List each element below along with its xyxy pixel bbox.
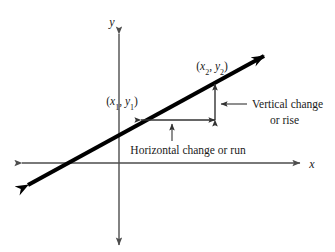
point-1-label: (x1, y1): [106, 95, 138, 112]
point-2-close-paren: ): [224, 60, 228, 73]
slope-diagram: y x (x1, y1) (x2, y2) Vertical change or…: [0, 0, 335, 252]
x-axis-label: x: [308, 157, 315, 171]
point-1-close-paren: ): [134, 95, 138, 108]
vertical-change-label-line1: Vertical change: [252, 98, 323, 111]
y-axis-label: y: [108, 15, 115, 29]
vertical-change-label-line2: or rise: [270, 114, 299, 126]
point-2-label: (x2, y2): [196, 60, 228, 77]
diagram-canvas: y x (x1, y1) (x2, y2) Vertical change or…: [0, 0, 335, 252]
horizontal-change-label: Horizontal change or run: [130, 144, 246, 157]
